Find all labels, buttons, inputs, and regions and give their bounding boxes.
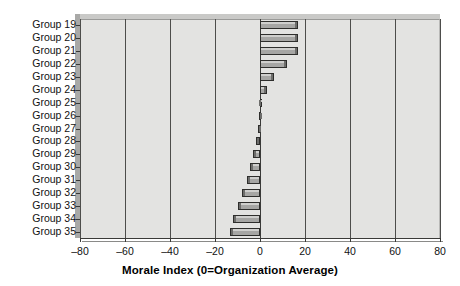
x-axis-tick <box>260 238 261 242</box>
y-axis-label-group-29: Group 29 <box>4 148 76 159</box>
bar-end-shading <box>271 74 273 80</box>
x-axis-tick <box>215 238 216 242</box>
y-axis-label-group-26: Group 26 <box>4 110 76 121</box>
x-axis-tick <box>80 238 81 242</box>
x-axis-tick-label-neg80: –80 <box>60 245 100 257</box>
bar-highlight <box>231 229 259 231</box>
x-axis-tick <box>125 238 126 242</box>
bar-series <box>80 19 440 238</box>
bar-highlight <box>261 22 297 24</box>
x-axis-tick-label-20: 20 <box>285 245 325 257</box>
x-axis-tick-label-neg20: –20 <box>195 245 235 257</box>
x-axis-tick-label-neg40: –40 <box>150 245 190 257</box>
bar-end-shading <box>259 126 261 132</box>
morale-index-bar-chart: Group 19Group 20Group 21Group 22Group 23… <box>0 0 460 286</box>
x-axis-tick <box>395 238 396 242</box>
y-axis-label-group-28: Group 28 <box>4 135 76 146</box>
y-axis-label-group-22: Group 22 <box>4 58 76 69</box>
y-axis-label-group-32: Group 32 <box>4 187 76 198</box>
x-axis-tick-label-60: 60 <box>375 245 415 257</box>
bar-end-shading <box>295 22 297 28</box>
y-axis-label-group-33: Group 33 <box>4 200 76 211</box>
x-axis-tick <box>350 238 351 242</box>
bar-end-shading <box>264 87 266 93</box>
bar-end-shading <box>284 61 286 67</box>
y-axis-label-group-19: Group 19 <box>4 19 76 30</box>
bar-end-shading <box>295 35 297 41</box>
bar-highlight <box>243 190 259 192</box>
x-axis-tick <box>170 238 171 242</box>
y-axis-label-group-24: Group 24 <box>4 84 76 95</box>
y-axis-label-group-35: Group 35 <box>4 226 76 237</box>
bar-highlight <box>239 203 260 205</box>
y-axis-label-group-34: Group 34 <box>4 213 76 224</box>
y-axis-label-group-20: Group 20 <box>4 32 76 43</box>
y-axis-label-group-23: Group 23 <box>4 71 76 82</box>
y-axis-label-group-27: Group 27 <box>4 123 76 134</box>
bar-end-shading <box>251 164 253 170</box>
bar-end-shading <box>260 113 262 119</box>
bar-highlight <box>234 216 259 218</box>
x-axis-line-shadow <box>82 241 443 242</box>
x-axis-tick <box>305 238 306 242</box>
bar-end-shading <box>257 138 259 144</box>
bar-end-shading <box>295 48 297 54</box>
bar-highlight <box>261 100 262 102</box>
bar-end-shading <box>259 100 261 106</box>
x-axis-title: Morale Index (0=Organization Average) <box>0 264 460 276</box>
bar-end-shading <box>248 177 250 183</box>
bar-end-shading <box>231 229 233 235</box>
bar-end-shading <box>234 216 236 222</box>
y-axis-label-group-30: Group 30 <box>4 161 76 172</box>
x-axis-tick-label-40: 40 <box>330 245 370 257</box>
x-axis-tick-label-80: 80 <box>420 245 460 257</box>
y-axis-label-group-25: Group 25 <box>4 97 76 108</box>
y-axis-tick-labels: Group 19Group 20Group 21Group 22Group 23… <box>0 19 76 238</box>
bar-end-shading <box>243 190 245 196</box>
y-axis-label-group-31: Group 31 <box>4 174 76 185</box>
bar-highlight <box>261 48 297 50</box>
x-axis-tick <box>440 238 441 242</box>
bar-highlight <box>261 35 297 37</box>
y-axis-label-group-21: Group 21 <box>4 45 76 56</box>
bar-end-shading <box>239 203 241 209</box>
x-axis-tick-label-0: 0 <box>240 245 280 257</box>
gridline <box>440 19 441 238</box>
x-axis-tick-label-neg60: –60 <box>105 245 145 257</box>
bar-highlight <box>261 61 286 63</box>
bar-end-shading <box>254 151 256 157</box>
